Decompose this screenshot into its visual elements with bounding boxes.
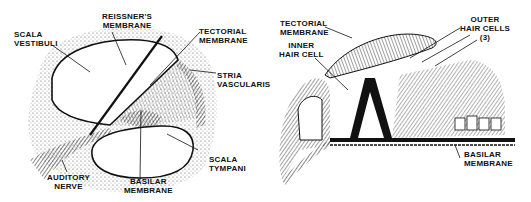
label-basilar-membrane-left: BASILAR MEMBRANE — [124, 177, 173, 195]
label-stria-vascularis: STRIA VASCULARIS — [217, 71, 270, 89]
left-cochlea-section — [28, 28, 216, 193]
label-scala-tympani: SCALA TYMPANI — [209, 155, 246, 173]
label-tectorial-membrane-right: TECTORIAL MEMBRANE — [280, 19, 329, 37]
label-scala-vestibuli: SCALA VESTIBULI — [14, 30, 58, 48]
label-outer-hair-cells: OUTER HAIR CELLS (3) — [460, 15, 510, 42]
diagram-drawing — [0, 0, 531, 202]
label-inner-hair-cell: INNER HAIR CELL — [279, 41, 323, 59]
label-tectorial-membrane-left: TECTORIAL MEMBRANE — [199, 27, 248, 45]
label-reissners-membrane: REISSNER'S MEMBRANE — [102, 12, 152, 30]
label-basilar-membrane-right: BASILAR MEMBRANE — [464, 150, 513, 168]
cochlea-diagram: SCALA VESTIBULI REISSNER'S MEMBRANE TECT… — [0, 0, 531, 202]
label-auditory-nerve: AUDITORY NERVE — [47, 173, 90, 191]
